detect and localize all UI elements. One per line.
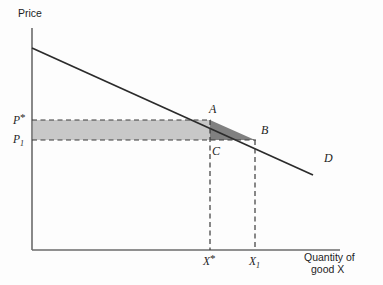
- consumer-surplus-triangle: [210, 120, 255, 140]
- p-one-base: P: [12, 133, 20, 145]
- x-one-subscript: 1: [256, 261, 260, 270]
- point-label-b: B: [261, 123, 269, 137]
- point-label-c: C: [212, 144, 221, 158]
- x-tick-label-x-one: X1: [248, 255, 260, 270]
- y-tick-label-p-star: P*: [12, 111, 26, 126]
- y-axis-title: Price: [18, 7, 42, 19]
- demand-curve: [32, 48, 313, 175]
- point-label-a: A: [208, 102, 217, 116]
- p-star-base: P: [12, 114, 20, 126]
- x-star-superscript: *: [210, 252, 216, 264]
- demand-curve-diagram: Price Quantity of good X A B C D P* P1 X…: [0, 0, 383, 285]
- demand-curve-label: D: [323, 151, 333, 165]
- consumer-surplus-rectangle: [33, 120, 210, 140]
- x-tick-label-x-star: X*: [202, 252, 216, 267]
- p-one-subscript: 1: [20, 139, 24, 148]
- x-axis-title-line1: Quantity of: [304, 251, 355, 263]
- x-axis-title-line2: good X: [311, 263, 344, 275]
- p-star-superscript: *: [20, 111, 26, 123]
- y-tick-label-p-one: P1: [12, 133, 24, 148]
